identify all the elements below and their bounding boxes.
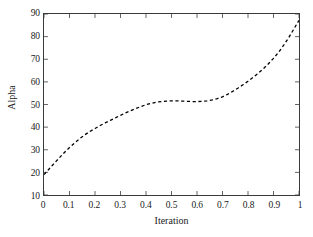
- figure-canvas: 102030405060708090 00.10.20.30.40.50.60.…: [0, 0, 313, 237]
- y-tick-label: 20: [14, 168, 40, 178]
- y-tick-label: 50: [14, 100, 40, 110]
- plot-area: [44, 14, 299, 195]
- plot-axes-frame: [43, 13, 300, 196]
- y-tick-label: 80: [14, 31, 40, 41]
- y-tick-label: 60: [14, 77, 40, 87]
- y-tick-label: 40: [14, 122, 40, 132]
- y-tick-label: 70: [14, 54, 40, 64]
- x-axis-title: Iteration: [43, 215, 300, 226]
- tick-marks-group: [44, 14, 299, 195]
- x-tick-label: 1: [280, 200, 313, 210]
- x-axis-tick-labels: 00.10.20.30.40.50.60.70.80.91: [0, 200, 313, 214]
- y-axis-title: Alpha: [6, 63, 17, 133]
- y-tick-label: 30: [14, 145, 40, 155]
- data-line-alpha: [44, 20, 299, 174]
- data-series-group: [44, 20, 299, 174]
- y-tick-label: 90: [14, 8, 40, 18]
